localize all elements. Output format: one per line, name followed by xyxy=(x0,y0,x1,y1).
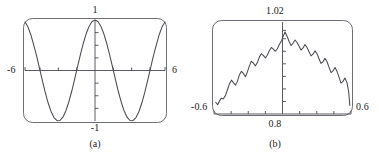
axis-label-a-top: 1 xyxy=(92,5,97,15)
axis-label-b-top: 1.02 xyxy=(266,6,284,16)
axis-label-a-right: 6 xyxy=(172,65,177,75)
caption-a: (a) xyxy=(89,139,100,149)
figure-panel-b: 1.02 0.8 -0.6 0.6 (b) xyxy=(190,0,379,158)
axis-label-a-left: -6 xyxy=(7,65,16,75)
axis-label-b-bottom: 0.8 xyxy=(269,119,282,129)
figure-panel-a: 1 -1 -6 6 (a) xyxy=(0,0,190,158)
plot-canvas-b xyxy=(190,0,379,158)
caption-b: (b) xyxy=(269,139,281,149)
axis-label-b-right: 0.6 xyxy=(356,102,369,112)
plot-canvas-a xyxy=(0,0,190,158)
axes-group-b xyxy=(214,22,351,114)
calculator-screen-b xyxy=(190,0,379,158)
axis-label-a-bottom: -1 xyxy=(91,123,100,133)
calculator-screen-a xyxy=(0,0,190,158)
figure-root: 1 -1 -6 6 (a) 1.02 0.8 -0.6 0.6 (b) xyxy=(0,0,379,158)
axes-group-a xyxy=(25,20,165,121)
axis-label-b-left: -0.6 xyxy=(191,102,207,112)
